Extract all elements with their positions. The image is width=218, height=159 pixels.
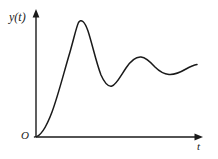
arrow-up-icon [33, 9, 40, 18]
plot-canvas [0, 0, 218, 159]
response-curve [35, 21, 198, 137]
origin-label: O [21, 130, 29, 141]
y-axis-label: y(t) [9, 11, 26, 23]
t-axis-label: t [197, 141, 200, 152]
graph-figure: y(t) O t [0, 0, 218, 159]
